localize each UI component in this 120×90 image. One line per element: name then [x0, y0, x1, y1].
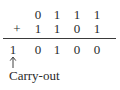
addend-2-digit: 0	[71, 22, 83, 35]
sum-digit: 0	[91, 43, 103, 56]
up-arrow-icon	[8, 56, 18, 68]
sum-digit: 1	[51, 43, 63, 56]
plus-operator: +	[11, 22, 23, 35]
addend-1-digit: 0	[32, 8, 44, 21]
addend-1-digit: 1	[71, 8, 83, 21]
addend-2-digit: 1	[91, 22, 103, 35]
binary-addition-diagram: 0 1 1 1 + 1 1 0 1 1 0 1 0 0 Carry-out	[0, 0, 120, 90]
addend-2-digit: 1	[32, 22, 44, 35]
sum-divider-line	[3, 38, 116, 39]
sum-digit: 0	[71, 43, 83, 56]
addend-2-digit: 1	[51, 22, 63, 35]
addend-1-digit: 1	[51, 8, 63, 21]
carry-out-label: Carry-out	[9, 69, 60, 82]
addend-1-digit: 1	[91, 8, 103, 21]
carry-out-digit: 1	[7, 43, 19, 56]
sum-digit: 0	[32, 43, 44, 56]
